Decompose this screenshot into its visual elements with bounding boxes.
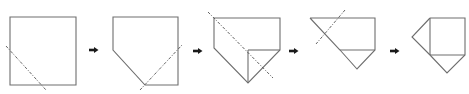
step-2: Step 2: lower-left corner folded back; f… (113, 17, 182, 90)
step-1-outline (10, 17, 76, 85)
step-3-fold-line (208, 12, 273, 78)
folding-diagram: Paper folding sequence Step 1: square sh… (0, 0, 469, 94)
arrow-2-icon (193, 48, 203, 54)
step-4: Step 4: folded along diagonal; fold line… (310, 10, 375, 69)
arrow-4-icon (390, 48, 400, 54)
step-4-fold-line (316, 10, 345, 44)
step-3: Step 3: lower-right corner folded up; fo… (208, 12, 280, 83)
arrow-1-icon (89, 47, 99, 53)
step-1: Step 1: square sheet with diagonal fold … (6, 17, 76, 90)
step-5-outline (412, 18, 465, 73)
step-1-fold-line (6, 46, 46, 90)
diagram-canvas: Step 1: square sheet with diagonal fold … (0, 0, 469, 94)
step-2-fold-line (140, 45, 182, 90)
step-4-outline (310, 18, 375, 69)
arrow-3-icon (289, 48, 299, 54)
step-5: Step 5: final shape — square with two tr… (412, 18, 465, 73)
step-2-outline (113, 17, 178, 85)
